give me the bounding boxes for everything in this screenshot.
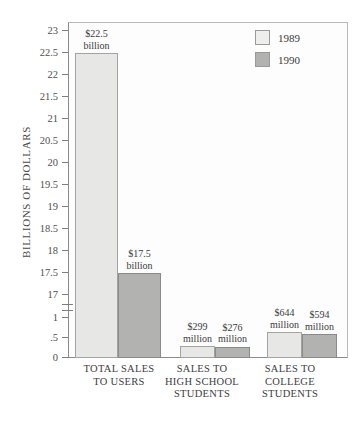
y-tick-label: .5 — [0, 330, 58, 345]
y-tick-label: 18.5 — [0, 221, 58, 236]
axis-break-mark-1-icon — [62, 304, 73, 305]
y-tick-mark-icon — [62, 317, 68, 318]
bar-1989-group-3[interactable] — [267, 332, 302, 358]
y-tick-label: 21 — [0, 111, 58, 126]
y-tick-label: 0 — [0, 350, 58, 365]
y-tick-mark-icon — [62, 162, 68, 163]
y-tick-mark-icon — [62, 228, 68, 229]
y-tick-mark-icon — [62, 140, 68, 141]
legend-label-1989: 1989 — [278, 32, 300, 44]
axis-break-mark-2-icon — [62, 310, 73, 311]
y-tick-label: 22 — [0, 67, 58, 82]
y-tick-label: 21.5 — [0, 89, 58, 104]
y-tick-label: 20.5 — [0, 133, 58, 148]
value-label-1990-group-3: $594 million — [294, 309, 345, 332]
legend-label-1990: 1990 — [278, 54, 300, 66]
legend: 1989 1990 — [255, 28, 300, 72]
y-tick-mark-icon — [62, 250, 68, 251]
bar-1989-group-2[interactable] — [180, 346, 215, 358]
value-label-1990-group-1: $17.5 billion — [110, 248, 169, 271]
y-tick-mark-icon — [62, 184, 68, 185]
y-tick-mark-icon — [62, 337, 68, 338]
bar-1990-group-2[interactable] — [215, 347, 250, 358]
y-tick-mark-icon — [62, 272, 68, 273]
y-tick-mark-icon — [62, 357, 68, 358]
y-tick-label: 19.5 — [0, 177, 58, 192]
y-tick-label: 23 — [0, 23, 58, 38]
y-tick-mark-icon — [62, 118, 68, 119]
y-tick-label: 20 — [0, 155, 58, 170]
legend-item-1990[interactable]: 1990 — [255, 50, 300, 69]
legend-item-1989[interactable]: 1989 — [255, 28, 300, 47]
bar-1990-group-3[interactable] — [302, 334, 337, 358]
y-tick-label: 18 — [0, 243, 58, 258]
y-tick-label: 1 — [0, 310, 58, 325]
legend-swatch-1990-icon — [255, 52, 270, 67]
y-tick-mark-icon — [62, 96, 68, 97]
y-tick-label: 22.5 — [0, 45, 58, 60]
bar-chart: BILLIONS OF DOLLARS 2322.52221.52120.520… — [0, 0, 361, 424]
y-tick-mark-icon — [62, 74, 68, 75]
y-tick-mark-icon — [62, 52, 68, 53]
y-tick-mark-icon — [62, 294, 68, 295]
legend-swatch-1989-icon — [255, 30, 270, 45]
y-tick-label: 17 — [0, 287, 58, 302]
bar-1990-group-1[interactable] — [118, 273, 161, 358]
y-tick-mark-icon — [62, 206, 68, 207]
y-tick-label: 19 — [0, 199, 58, 214]
bar-1989-group-1[interactable] — [75, 53, 118, 358]
value-label-1989-group-1: $22.5 billion — [67, 28, 126, 51]
category-label-3: SALES TO COLLEGE STUDENTS — [238, 363, 342, 401]
value-label-1990-group-2: $276 million — [207, 322, 258, 345]
y-tick-label: 17.5 — [0, 265, 58, 280]
